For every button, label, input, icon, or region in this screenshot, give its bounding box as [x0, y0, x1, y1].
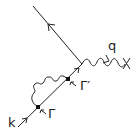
internal-photon-loop	[32, 76, 68, 107]
vertex-gamma-prime	[66, 77, 70, 81]
label-gamma: Γ	[48, 107, 55, 120]
label-k: k	[8, 116, 16, 129]
gamma-prime-pointer	[71, 82, 76, 86]
label-gamma-prime: Γ′	[80, 79, 90, 92]
outgoing-fermion-line	[33, 6, 82, 64]
feynman-diagram: k q Γ Γ′	[0, 0, 137, 133]
gamma-pointer	[41, 110, 46, 114]
diagram-lines	[0, 0, 137, 133]
vertex-gamma	[36, 105, 40, 109]
label-q: q	[108, 39, 116, 52]
